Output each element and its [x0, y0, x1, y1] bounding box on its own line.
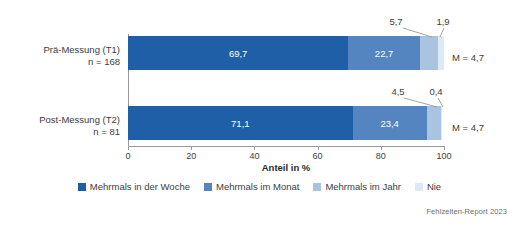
legend-swatch-icon [415, 183, 423, 191]
bar-segment-woche[interactable]: 69,7 [128, 36, 348, 70]
mean-label-t1: M = 4,7 [452, 52, 484, 63]
x-tick-label-40: 40 [249, 151, 259, 161]
bar-segment-nie[interactable] [438, 36, 444, 70]
x-tick-60 [318, 146, 319, 150]
category-label-line2: n = 81 [8, 126, 120, 138]
bar-row-post-messung: 71,1 23,4 [128, 106, 444, 140]
legend-swatch-icon [313, 183, 321, 191]
source-note: Fehlzeiten-Report 2023 [426, 207, 507, 216]
category-label-line2: n = 168 [8, 56, 120, 68]
x-tick-label-80: 80 [376, 151, 386, 161]
legend-label: Mehrmals im Jahr [325, 181, 401, 192]
bar-segment-nie[interactable] [441, 106, 442, 140]
legend-label: Nie [427, 181, 441, 192]
legend-item-jahr[interactable]: Mehrmals im Jahr [313, 181, 401, 192]
chart-legend: Mehrmals in der Woche Mehrmals im Monat … [0, 181, 519, 192]
category-label-pra-messung: Prä-Messung (T1) n = 168 [8, 44, 120, 68]
x-tick-label-100: 100 [436, 151, 451, 161]
callout-value-nie-t1: 1,9 [436, 16, 449, 27]
callout-value-jahr-t1: 5,7 [389, 16, 402, 27]
bar-segment-monat[interactable]: 23,4 [353, 106, 427, 140]
x-tick-80 [381, 146, 382, 150]
legend-item-monat[interactable]: Mehrmals im Monat [204, 181, 299, 192]
x-tick-0 [128, 146, 129, 150]
bar-segment-jahr[interactable] [420, 36, 438, 70]
category-label-line1: Post-Messung (T2) [8, 114, 120, 126]
bar-segment-woche[interactable]: 71,1 [128, 106, 353, 140]
stacked-bar-chart: Prä-Messung (T1) n = 168 Post-Messung (T… [0, 0, 519, 226]
bar-segment-monat[interactable]: 22,7 [348, 36, 420, 70]
legend-item-nie[interactable]: Nie [415, 181, 441, 192]
legend-label: Mehrmals in der Woche [90, 181, 190, 192]
mean-label-t2: M = 4,7 [452, 122, 484, 133]
bar-segment-jahr[interactable] [427, 106, 441, 140]
x-tick-label-20: 20 [186, 151, 196, 161]
x-tick-40 [254, 146, 255, 150]
legend-item-woche[interactable]: Mehrmals in der Woche [78, 181, 190, 192]
x-tick-label-60: 60 [313, 151, 323, 161]
category-label-line1: Prä-Messung (T1) [8, 44, 120, 56]
x-axis-line [128, 146, 445, 147]
callout-value-nie-t2: 0,4 [429, 86, 442, 97]
category-label-post-messung: Post-Messung (T2) n = 81 [8, 114, 120, 138]
bar-row-pra-messung: 69,7 22,7 [128, 36, 444, 70]
callout-value-jahr-t2: 4,5 [391, 86, 404, 97]
legend-swatch-icon [204, 183, 212, 191]
x-tick-100 [444, 146, 445, 150]
x-axis-title: Anteil in % [128, 162, 444, 173]
x-tick-label-0: 0 [125, 151, 130, 161]
legend-swatch-icon [78, 183, 86, 191]
legend-label: Mehrmals im Monat [216, 181, 299, 192]
x-tick-20 [191, 146, 192, 150]
